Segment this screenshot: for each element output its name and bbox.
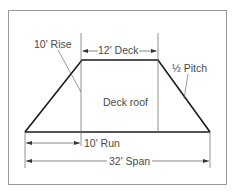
arrowhead-icon — [151, 49, 157, 53]
arrowhead-icon — [74, 141, 80, 145]
arrowhead-icon — [26, 159, 32, 163]
rise-label: 10' Rise — [34, 39, 72, 50]
arrowhead-icon — [203, 159, 209, 163]
deck-label: 12' Deck — [98, 45, 139, 56]
run-label: 10' Run — [84, 138, 120, 149]
pitch-leader-line — [184, 74, 188, 99]
arrowhead-icon — [26, 141, 32, 145]
center-label: Deck roof — [103, 97, 148, 108]
arrowhead-icon — [82, 49, 88, 53]
span-label: 32' Span — [107, 156, 152, 167]
pitch-label: ½ Pitch — [172, 63, 207, 74]
